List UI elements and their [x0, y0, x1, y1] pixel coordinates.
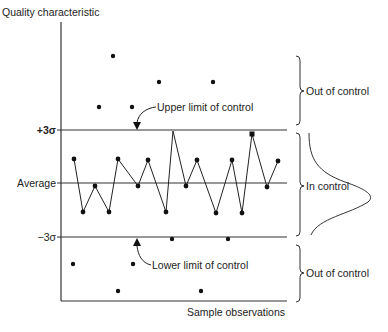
- out-of-control-points-upper: [97, 54, 215, 109]
- in-control-series-line: [74, 131, 278, 213]
- ucl-arrow-icon: [133, 107, 156, 130]
- brace-upper-icon: [296, 56, 304, 125]
- brace-lower-icon: [296, 245, 304, 302]
- brace-middle-icon: [296, 133, 304, 236]
- lcl-arrow-icon: [133, 238, 151, 265]
- normal-distribution-curve: [309, 133, 371, 235]
- control-chart: [0, 0, 388, 332]
